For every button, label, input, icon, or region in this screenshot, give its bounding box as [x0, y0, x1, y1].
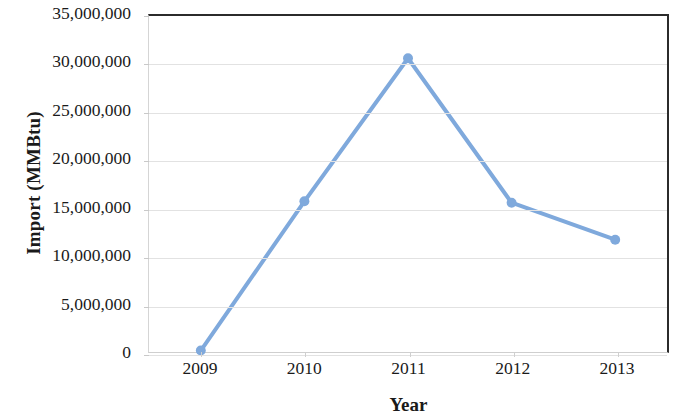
y-tick-mark: [144, 210, 149, 211]
gridline: [149, 161, 667, 162]
gridline: [149, 355, 667, 356]
x-axis-tick-labels: 20092010201120122013: [148, 360, 669, 384]
gridline: [149, 210, 667, 211]
x-tick-label: 2011: [391, 360, 425, 378]
y-tick-label: 15,000,000: [52, 199, 131, 217]
x-tick-label: 2009: [183, 360, 218, 378]
x-tick-label: 2010: [287, 360, 322, 378]
x-tick-mark: [410, 352, 411, 357]
x-tick-mark: [201, 352, 202, 357]
y-axis-tick-labels: 05,000,00010,000,00015,000,00020,000,000…: [26, 0, 131, 420]
x-tick-mark: [618, 352, 619, 357]
y-tick-label: 0: [122, 344, 131, 362]
x-tick-label: 2013: [599, 360, 634, 378]
y-tick-mark: [144, 355, 149, 356]
y-tick-mark: [144, 16, 149, 17]
x-tick-mark: [514, 352, 515, 357]
y-tick-mark: [144, 258, 149, 259]
x-tick-label: 2012: [495, 360, 530, 378]
y-tick-mark: [144, 161, 149, 162]
y-tick-label: 25,000,000: [52, 102, 131, 120]
series-line: [149, 16, 667, 352]
y-tick-label: 35,000,000: [52, 5, 131, 23]
gridline: [149, 64, 667, 65]
gridline: [149, 113, 667, 114]
y-tick-label: 10,000,000: [52, 247, 131, 265]
data-point-marker: [299, 196, 309, 206]
x-axis-title: Year: [148, 394, 669, 416]
y-tick-mark: [144, 307, 149, 308]
y-tick-mark: [144, 113, 149, 114]
gridline: [149, 258, 667, 259]
gridline: [149, 307, 667, 308]
y-tick-label: 20,000,000: [52, 151, 131, 169]
data-point-marker: [507, 198, 517, 208]
y-tick-mark: [144, 64, 149, 65]
data-point-marker: [610, 235, 620, 245]
plot-area: [148, 14, 669, 353]
y-tick-label: 30,000,000: [52, 54, 131, 72]
data-point-marker: [403, 53, 413, 63]
x-tick-mark: [305, 352, 306, 357]
y-tick-label: 5,000,000: [61, 296, 131, 314]
line-chart: Import (MMBtu) 05,000,00010,000,00015,00…: [0, 0, 693, 420]
